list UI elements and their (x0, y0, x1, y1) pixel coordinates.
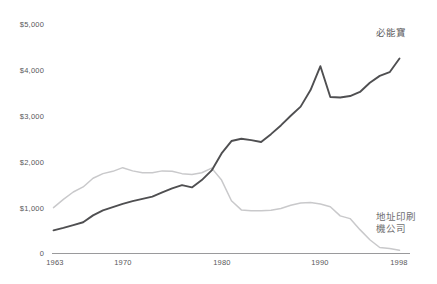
y-tick-label-1000: $1,000 (2, 204, 44, 213)
series-label-addressograph-line2: 機公司 (376, 223, 416, 235)
series-label-addressograph: 地址印刷 機公司 (376, 211, 416, 234)
chart-plot-area (0, 0, 437, 284)
series-group (54, 58, 400, 250)
x-tick-label-1998: 1998 (388, 258, 410, 267)
x-tick-label-1970: 1970 (112, 258, 134, 267)
x-tick-label-1990: 1990 (309, 258, 331, 267)
series-label-pitney-bowes: 必能寶 (376, 27, 406, 39)
y-tick-label-4000: $4,000 (2, 66, 44, 75)
series-line-pitney-bowes (54, 58, 400, 230)
y-tick-label-5000: $5,000 (2, 20, 44, 29)
x-tick-label-1963: 1963 (44, 258, 66, 267)
y-tick-label-2000: $2,000 (2, 158, 44, 167)
series-label-addressograph-line1: 地址印刷 (376, 211, 416, 223)
y-tick-label-0: 0 (2, 249, 44, 258)
y-tick-label-3000: $3,000 (2, 112, 44, 121)
chart-container: $5,000 $4,000 $3,000 $2,000 $1,000 0 196… (0, 0, 437, 284)
x-tick-label-1980: 1980 (211, 258, 233, 267)
